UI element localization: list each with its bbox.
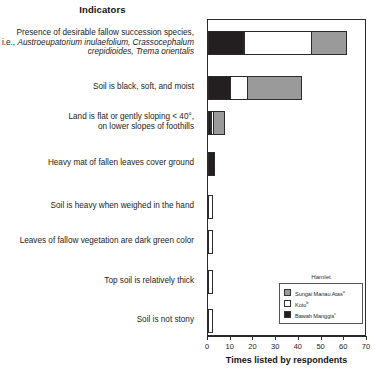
- x-axis-tick: [343, 336, 344, 340]
- x-axis: 010203040506070: [207, 336, 366, 337]
- stacked-bar[interactable]: [208, 152, 215, 176]
- legend-item-label: Bawah Manggisc: [295, 311, 336, 319]
- bar-segment[interactable]: [213, 111, 224, 135]
- bar-segment[interactable]: [208, 152, 215, 176]
- category-label-column: Presence of desirable fallow succession …: [0, 19, 200, 336]
- category-label: Soil is not stony: [0, 315, 194, 325]
- x-axis-tick-label: 0: [205, 342, 209, 351]
- legend-swatch: [284, 300, 291, 307]
- x-axis-tick-label: 60: [339, 342, 347, 351]
- bar-segment[interactable]: [230, 76, 248, 100]
- bar-row: [208, 111, 367, 135]
- bar-segment[interactable]: [208, 76, 231, 100]
- x-axis-tick-label: 50: [316, 342, 324, 351]
- stacked-bar[interactable]: [208, 195, 213, 219]
- x-axis-tick-label: 40: [294, 342, 302, 351]
- bar-row: [208, 76, 367, 100]
- x-axis-tick-label: 10: [226, 342, 234, 351]
- bar-row: [208, 195, 367, 219]
- legend-item[interactable]: Bawah Manggisc: [284, 309, 358, 320]
- stacked-bar[interactable]: [208, 111, 225, 135]
- bar-segment[interactable]: [244, 31, 312, 55]
- legend-item-label: Kotob: [295, 300, 309, 308]
- stacked-bar-chart-figure: Indicators Presence of desirable fallow …: [0, 0, 376, 381]
- legend-swatch: [284, 289, 291, 296]
- legend-item[interactable]: Sungai Manau Atasa: [284, 287, 358, 298]
- x-axis-tick: [230, 336, 231, 340]
- x-axis-tick-label: 70: [362, 342, 370, 351]
- legend-swatch: [284, 311, 291, 318]
- bar-row: [208, 152, 367, 176]
- legend-item[interactable]: Kotob: [284, 298, 358, 309]
- category-label: Land is flat or gently sloping < 40°,on …: [0, 112, 194, 131]
- x-axis-tick: [252, 336, 253, 340]
- bar-segment[interactable]: [208, 195, 213, 219]
- x-axis-tick-label: 20: [248, 342, 256, 351]
- stacked-bar[interactable]: [208, 31, 347, 55]
- stacked-bar[interactable]: [208, 76, 302, 100]
- bar-row: [208, 230, 367, 254]
- x-axis-tick: [321, 336, 322, 340]
- category-label: Soil is heavy when weighed in the hand: [0, 201, 194, 211]
- x-axis-tick: [298, 336, 299, 340]
- category-label: Leaves of fallow vegetation are dark gre…: [0, 236, 194, 246]
- category-label: Top soil is relatively thick: [0, 276, 194, 286]
- category-label: Presence of desirable fallow succession …: [0, 28, 194, 57]
- x-axis-tick: [207, 336, 208, 340]
- stacked-bar[interactable]: [208, 309, 213, 333]
- legend-title: Hamlet: [279, 273, 363, 280]
- bar-segment[interactable]: [247, 76, 302, 100]
- page-title: Indicators: [0, 4, 205, 15]
- bar-row: [208, 31, 367, 55]
- legend-item-label: Sungai Manau Atasa: [295, 289, 345, 297]
- bar-segment[interactable]: [208, 270, 213, 294]
- legend-box: Sungai Manau AtasaKotobBawah Manggisc: [279, 283, 363, 324]
- x-axis-tick: [366, 336, 367, 340]
- bar-segment[interactable]: [208, 309, 213, 333]
- category-label: Soil is black, soft, and moist: [0, 82, 194, 92]
- category-label: Heavy mat of fallen leaves cover ground: [0, 158, 194, 168]
- bar-segment[interactable]: [311, 31, 347, 55]
- x-axis-label: Times listed by respondents: [207, 355, 366, 365]
- x-axis-tick: [275, 336, 276, 340]
- stacked-bar[interactable]: [208, 270, 213, 294]
- bar-segment[interactable]: [208, 31, 244, 55]
- bar-segment[interactable]: [208, 230, 213, 254]
- stacked-bar[interactable]: [208, 230, 213, 254]
- x-axis-tick-label: 30: [271, 342, 279, 351]
